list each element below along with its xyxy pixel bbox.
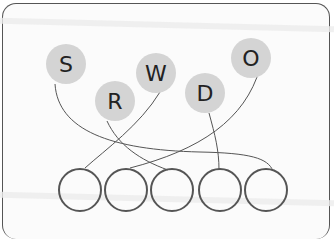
answer-circle-1[interactable]: [59, 169, 101, 211]
letter-node-W: W: [136, 53, 176, 93]
letter-node-O: O: [231, 38, 271, 78]
matching-diagram: SRWDO: [0, 0, 334, 239]
connector-D-4: [209, 113, 219, 170]
svg-text:D: D: [197, 81, 214, 106]
answer-circle-2[interactable]: [105, 169, 147, 211]
svg-text:O: O: [242, 46, 259, 71]
connector-R-3: [107, 121, 168, 170]
svg-text:R: R: [107, 89, 122, 114]
answer-circle-3[interactable]: [151, 169, 193, 211]
letter-node-R: R: [95, 81, 135, 121]
answer-circle-4[interactable]: [199, 169, 241, 211]
letter-node-D: D: [185, 73, 225, 113]
svg-text:S: S: [59, 52, 73, 77]
answer-circle-5[interactable]: [245, 169, 287, 211]
svg-text:W: W: [145, 61, 167, 86]
letter-node-S: S: [46, 44, 86, 84]
